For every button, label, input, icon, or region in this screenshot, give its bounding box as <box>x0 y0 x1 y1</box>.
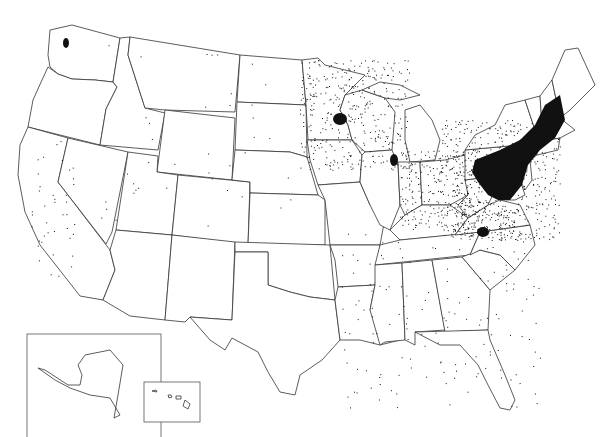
state-ohio <box>420 155 468 205</box>
minneapolis-cluster <box>333 113 347 125</box>
hawaii-inset-frame <box>144 382 200 422</box>
state-florida <box>415 330 515 410</box>
state-michigan-lower <box>405 105 440 162</box>
state-south-dakota <box>235 102 307 157</box>
state-north-dakota <box>237 55 306 105</box>
state-colorado <box>172 175 250 245</box>
us-dot-density-map <box>0 0 615 437</box>
state-arkansas <box>330 245 380 287</box>
state-arizona <box>103 230 172 320</box>
puget-cluster <box>63 38 69 48</box>
alaska-inset <box>27 334 161 437</box>
state-washington <box>48 25 120 82</box>
state-wyoming <box>157 110 235 180</box>
state-new-mexico <box>165 235 235 322</box>
state-kansas <box>248 193 325 245</box>
hawaii-inset <box>144 382 200 422</box>
chicago-cluster <box>390 154 398 166</box>
state-montana <box>128 37 240 112</box>
